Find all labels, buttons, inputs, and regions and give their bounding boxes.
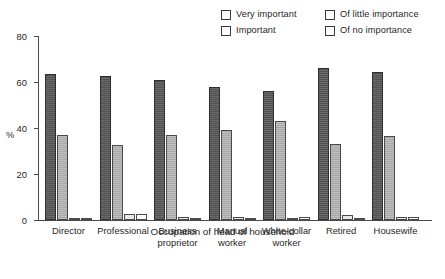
y-axis-label: % [6, 129, 14, 140]
bar [396, 217, 407, 220]
legend-label-important: Important [236, 26, 276, 35]
bar-group [100, 36, 147, 220]
bar [245, 218, 256, 220]
y-tick: 80 [34, 36, 38, 37]
legend-swatch-of-little-importance [325, 10, 335, 20]
legend-swatch-important [221, 26, 231, 36]
bar [112, 145, 123, 220]
bar [287, 218, 298, 220]
legend-label-of-little-importance: Of little importance [340, 10, 419, 19]
bar [318, 68, 329, 220]
bar-group [154, 36, 201, 220]
y-tick: 40 [34, 128, 38, 129]
legend-swatch-of-no-importance [325, 26, 335, 36]
bar-group [45, 36, 92, 220]
bar [233, 217, 244, 220]
bar-group [318, 36, 365, 220]
bar [342, 215, 353, 220]
bar [408, 217, 419, 220]
legend-item-of-no-importance: Of no importance [325, 26, 443, 36]
bar [209, 87, 220, 220]
bar [384, 136, 395, 220]
bar [263, 91, 274, 220]
legend-item-very-important: Very important [221, 10, 325, 20]
y-axis-line [38, 36, 39, 221]
plot-area: 020406080 DirectorProfessionalBusiness p… [38, 36, 432, 221]
x-axis-title: Occupation of head of household [0, 226, 445, 237]
y-tick-label: 80 [17, 31, 27, 42]
bar [81, 218, 92, 220]
bar-group [372, 36, 419, 220]
y-tick-label: 20 [17, 169, 27, 180]
bar [124, 214, 135, 220]
bar [190, 218, 201, 220]
legend-label-of-no-importance: Of no importance [340, 26, 412, 35]
bar [178, 217, 189, 220]
y-tick: 20 [34, 174, 38, 175]
y-tick: 0 [34, 220, 38, 221]
bar [154, 80, 165, 220]
legend-item-important: Important [221, 26, 325, 36]
bar [166, 135, 177, 220]
x-axis-line [38, 220, 432, 221]
chart-legend: Very important Of little importance Impo… [221, 7, 443, 39]
bar-group [263, 36, 310, 220]
bar [299, 217, 310, 220]
y-tick-label: 40 [17, 123, 27, 134]
bar [136, 214, 147, 220]
legend-label-very-important: Very important [236, 10, 297, 19]
legend-swatch-very-important [221, 10, 231, 20]
y-tick: 60 [34, 82, 38, 83]
y-tick-label: 0 [22, 215, 27, 226]
y-tick-label: 60 [17, 77, 27, 88]
bar [354, 218, 365, 220]
bar [221, 130, 232, 220]
bar [275, 121, 286, 220]
bar-chart-figure: Very important Of little importance Impo… [0, 0, 445, 279]
bar [57, 135, 68, 220]
bar [100, 76, 111, 220]
bar [330, 144, 341, 220]
legend-item-of-little-importance: Of little importance [325, 10, 443, 20]
bar-group [209, 36, 256, 220]
bar [69, 218, 80, 220]
bar [45, 74, 56, 220]
bar [372, 72, 383, 220]
